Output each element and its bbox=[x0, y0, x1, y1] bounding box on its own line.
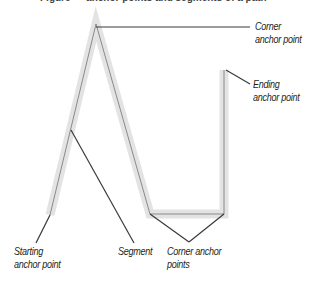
path-highlight bbox=[50, 24, 224, 215]
label-line: points bbox=[167, 258, 221, 271]
label-line: Segment bbox=[118, 245, 152, 258]
leader-starting bbox=[36, 215, 50, 243]
leader-ending bbox=[226, 70, 250, 84]
label-line: Corner bbox=[255, 20, 302, 33]
label-line: anchor point bbox=[253, 91, 300, 104]
label-ending-anchor-point: Ending anchor point bbox=[253, 78, 300, 104]
label-line: anchor point bbox=[255, 33, 302, 46]
leader-segment bbox=[71, 130, 134, 243]
label-line: Corner anchor bbox=[167, 245, 221, 258]
label-corner-anchor-points: Corner anchor points bbox=[167, 245, 221, 271]
label-line: anchor point bbox=[14, 258, 61, 271]
label-corner-anchor-point: Corner anchor point bbox=[255, 20, 302, 46]
label-starting-anchor-point: Starting anchor point bbox=[14, 245, 61, 271]
label-segment: Segment bbox=[118, 245, 152, 258]
label-line: Ending bbox=[253, 78, 300, 91]
label-line: Starting bbox=[14, 245, 61, 258]
